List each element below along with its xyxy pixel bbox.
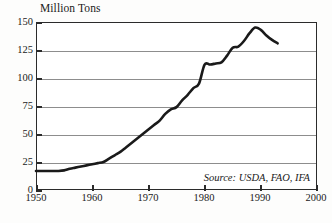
fertilizer-line-chart: Million Tons Source: USDA, FAO, IFA 150 … (0, 0, 332, 223)
series-line-world-fertilizer-use (36, 27, 278, 171)
series-layer (0, 0, 332, 223)
